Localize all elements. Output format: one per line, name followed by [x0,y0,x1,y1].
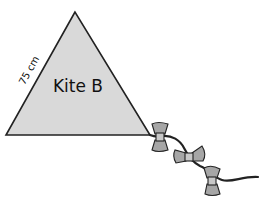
kite-label: Kite B [53,76,103,96]
tail-bow-2 [174,146,205,163]
kite-diagram: Kite B 75 cm [0,0,260,206]
tail-bow-3 [204,166,220,195]
